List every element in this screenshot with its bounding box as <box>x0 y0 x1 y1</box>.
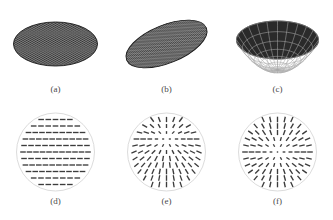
panel-f-caption: (f) <box>222 196 333 206</box>
panel-a-caption: (a) <box>0 84 111 94</box>
panel-d: (d) <box>0 110 111 220</box>
panel-d-graphic <box>0 110 111 202</box>
panel-e-caption: (e) <box>111 196 222 206</box>
panel-c: (c) <box>222 0 333 110</box>
panel-c-graphic <box>222 0 333 92</box>
panel-b: (b) <box>111 0 222 110</box>
panel-a-graphic <box>0 0 111 92</box>
panel-f: (f) <box>222 110 333 220</box>
panel-d-caption: (d) <box>0 196 111 206</box>
panel-b-graphic <box>111 0 222 92</box>
panel-e-graphic <box>111 110 222 202</box>
figure-row-bottom: (d) (e) (f) <box>0 110 333 220</box>
panel-c-caption: (c) <box>222 84 333 94</box>
panel-a: (a) <box>0 0 111 110</box>
figure-row-top: (a) (b) (c) <box>0 0 333 110</box>
figure-panel-grid: (a) (b) (c) (d) (e) (f) <box>0 0 333 220</box>
panel-f-graphic <box>222 110 333 202</box>
panel-e: (e) <box>111 110 222 220</box>
panel-b-caption: (b) <box>111 84 222 94</box>
